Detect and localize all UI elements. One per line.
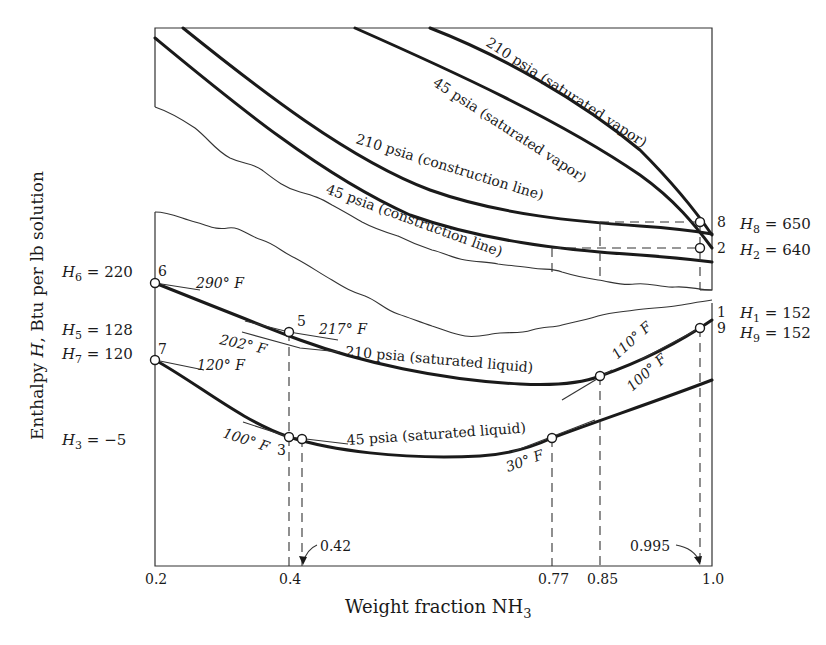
h-values-left: H6 = 220 H5 = 128 H7 = 120 H3 = −5	[61, 263, 133, 452]
annotation-0.42: 0.42	[320, 538, 351, 554]
point-label-5: 5	[297, 313, 306, 329]
h-values-right: H8 = 650 H2 = 640 H1 = 152 H9 = 152	[739, 215, 811, 345]
annotation-0.995: 0.995	[630, 538, 670, 554]
point-x085	[596, 372, 605, 381]
label-45-construction: 45 psia (construction line)	[324, 181, 505, 260]
point-label-8: 8	[717, 214, 726, 230]
h7-label: H7 = 120	[61, 345, 133, 366]
x-tick-0.2: 0.2	[145, 571, 167, 587]
h8-label: H8 = 650	[739, 215, 811, 236]
temp-120: 120° F	[197, 357, 246, 373]
point-8	[696, 218, 705, 227]
point-label-7: 7	[158, 341, 167, 357]
x-tick-0.4: 0.4	[279, 571, 301, 587]
label-210-liquid: 210 psia (saturated liquid)	[345, 343, 534, 375]
temp-202: 202° F	[217, 331, 269, 357]
x-tick-0.77: 0.77	[538, 571, 569, 587]
point-6	[151, 279, 160, 288]
x-tick-0.85: 0.85	[587, 571, 618, 587]
x-axis-ticks: 0.2 0.4 0.77 0.85 1.0	[145, 571, 724, 587]
point-x077	[548, 434, 557, 443]
point-label-3: 3	[277, 442, 286, 458]
temp-217: 217° F	[318, 321, 368, 337]
point-label-6: 6	[158, 263, 167, 279]
h6-label: H6 = 220	[61, 263, 133, 284]
x-annotations: 0.42 0.995	[299, 538, 702, 565]
temp-30: 30° F	[504, 446, 547, 475]
x-axis-title: Weight fraction NH3	[345, 596, 531, 621]
point-3	[285, 433, 294, 442]
h2-label: H2 = 640	[739, 241, 811, 262]
point-x042	[298, 435, 307, 444]
dashed-verticals	[289, 222, 700, 566]
x-tick-1.0: 1.0	[702, 571, 724, 587]
h3-label: H3 = −5	[61, 431, 126, 452]
point-9	[696, 324, 705, 333]
point-label-2: 2	[717, 240, 726, 256]
h5-label: H5 = 128	[61, 321, 133, 342]
h1-label: H1 = 152	[739, 304, 811, 325]
h9-label: H9 = 152	[739, 324, 811, 345]
point-label-1: 1	[717, 304, 726, 320]
point-2	[696, 244, 705, 253]
temp-290: 290° F	[195, 275, 245, 291]
curve-labels: 210 psia (saturated vapor) 45 psia (satu…	[324, 34, 650, 448]
y-axis-title: Enthalpy H, Btu per lb solution	[27, 171, 47, 440]
enthalpy-concentration-chart: 6 7 5 3 8 2 1 9 210 psia (saturated vapo…	[0, 0, 826, 645]
label-45-liquid: 45 psia (saturated liquid)	[346, 420, 526, 448]
point-label-9: 9	[717, 320, 726, 336]
point-5	[285, 328, 294, 337]
